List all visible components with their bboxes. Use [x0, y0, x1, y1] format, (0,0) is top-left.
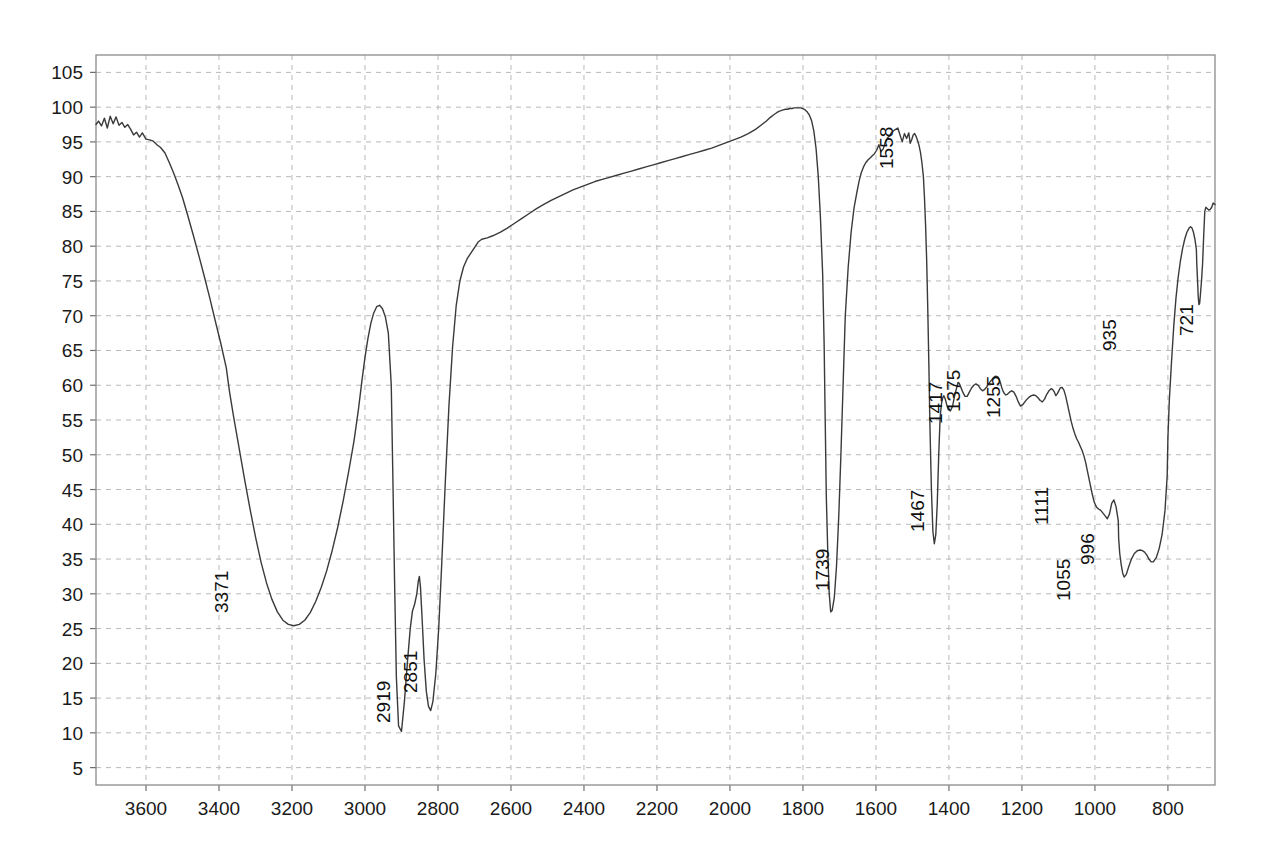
y-tick-label: 50 — [62, 445, 83, 466]
y-tick-label: 45 — [62, 480, 83, 501]
peak-labels: 3371291928511739155814671417137512551111… — [211, 127, 1197, 723]
peak-label: 1558 — [876, 127, 897, 169]
y-tick-label: 85 — [62, 201, 83, 222]
peak-label: 935 — [1099, 319, 1120, 351]
x-axis-tick-labels: 3600340032003000280026002400220020001800… — [125, 798, 1184, 819]
y-tick-label: 30 — [62, 584, 83, 605]
peak-label: 996 — [1077, 533, 1098, 565]
x-tick-label: 2400 — [563, 798, 605, 819]
y-tick-label: 75 — [62, 271, 83, 292]
x-tick-label: 3200 — [271, 798, 313, 819]
y-axis-tick-labels: 5101520253035404550556065707580859095100… — [51, 62, 83, 778]
peak-label: 1111 — [1031, 487, 1052, 525]
peak-label: 2919 — [373, 681, 394, 723]
spectrum-plot: 5101520253035404550556065707580859095100… — [0, 0, 1280, 853]
x-tick-label: 2600 — [490, 798, 532, 819]
peak-label: 1739 — [812, 549, 833, 591]
y-tick-label: 70 — [62, 306, 83, 327]
y-tick-label: 105 — [51, 62, 83, 83]
y-tick-label: 40 — [62, 514, 83, 535]
y-tick-label: 20 — [62, 653, 83, 674]
x-tick-label: 1200 — [1001, 798, 1043, 819]
x-tick-label: 1800 — [782, 798, 824, 819]
y-tick-label: 25 — [62, 619, 83, 640]
x-tick-label: 1400 — [928, 798, 970, 819]
ir-spectrum-figure: 5101520253035404550556065707580859095100… — [0, 0, 1280, 853]
peak-label: 2851 — [400, 651, 421, 693]
x-tick-label: 3400 — [198, 798, 240, 819]
y-tick-label: 35 — [62, 549, 83, 570]
peak-label: 1467 — [907, 490, 928, 532]
tick-marks — [90, 72, 1168, 791]
y-tick-label: 80 — [62, 236, 83, 257]
x-tick-label: 2800 — [417, 798, 459, 819]
x-tick-label: 1600 — [855, 798, 897, 819]
y-tick-label: 55 — [62, 410, 83, 431]
x-tick-label: 800 — [1152, 798, 1184, 819]
x-tick-label: 3000 — [344, 798, 386, 819]
x-tick-label: 3600 — [125, 798, 167, 819]
x-tick-label: 1000 — [1074, 798, 1116, 819]
y-tick-label: 15 — [62, 688, 83, 709]
peak-label: 3371 — [211, 571, 232, 613]
peak-label: 721 — [1176, 304, 1197, 336]
y-tick-label: 60 — [62, 375, 83, 396]
y-tick-label: 10 — [62, 723, 83, 744]
y-tick-label: 95 — [62, 132, 83, 153]
peak-label: 1375 — [943, 370, 964, 412]
y-tick-label: 100 — [51, 97, 83, 118]
y-tick-label: 65 — [62, 340, 83, 361]
peak-label: 1255 — [983, 376, 1004, 418]
y-tick-label: 5 — [72, 758, 83, 779]
x-tick-label: 2000 — [709, 798, 751, 819]
y-tick-label: 90 — [62, 167, 83, 188]
peak-label: 1055 — [1053, 559, 1074, 601]
x-tick-label: 2200 — [636, 798, 678, 819]
